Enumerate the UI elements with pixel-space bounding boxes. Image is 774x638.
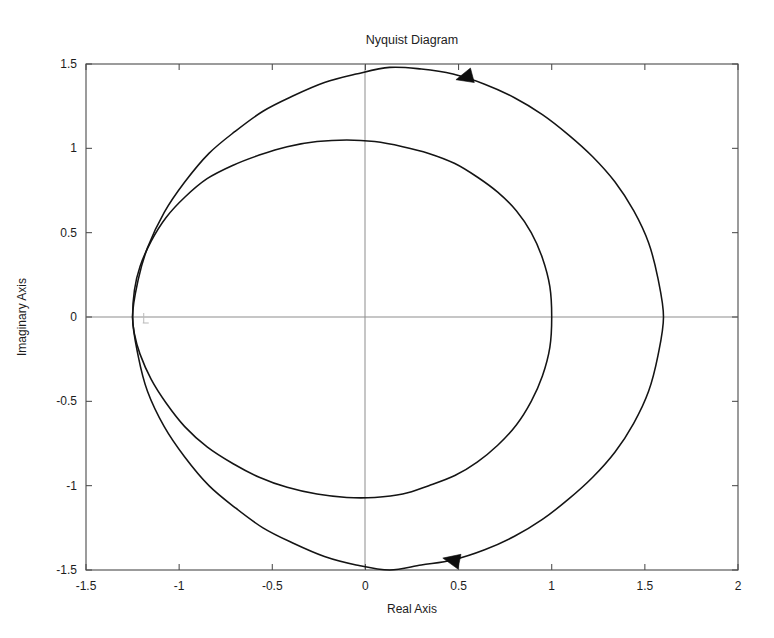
inner-locus	[133, 140, 552, 498]
nyquist-figure: Nyquist Diagram -1.5-1-0.500.511.52 -1.5…	[0, 0, 774, 638]
x-tick-label: 2	[735, 579, 742, 593]
x-tick-label: -0.5	[262, 579, 283, 593]
chart-title: Nyquist Diagram	[366, 33, 458, 47]
y-axis-tick-labels: -1.5-1-0.500.511.5	[56, 57, 77, 577]
x-tick-label: 0.5	[450, 579, 467, 593]
nyquist-curves	[133, 67, 664, 570]
y-tick-label: 0	[70, 310, 77, 324]
critical-point-marker	[143, 313, 149, 323]
x-tick-label: 0	[362, 579, 369, 593]
y-tick-label: -0.5	[56, 394, 77, 408]
nyquist-plot-canvas: Nyquist Diagram -1.5-1-0.500.511.52 -1.5…	[0, 0, 774, 638]
y-tick-label: -1	[66, 479, 77, 493]
x-axis-tick-labels: -1.5-1-0.500.511.52	[76, 579, 742, 593]
x-axis-label: Real Axis	[387, 602, 437, 616]
y-tick-label: 1.5	[60, 57, 77, 71]
x-tick-label: 1.5	[637, 579, 654, 593]
x-tick-label: -1	[174, 579, 185, 593]
x-tick-label: -1.5	[76, 579, 97, 593]
x-tick-label: 1	[548, 579, 555, 593]
y-tick-label: 0.5	[60, 226, 77, 240]
y-tick-label: -1.5	[56, 563, 77, 577]
y-tick-label: 1	[70, 141, 77, 155]
y-axis-label: Imaginary Axis	[15, 278, 29, 356]
